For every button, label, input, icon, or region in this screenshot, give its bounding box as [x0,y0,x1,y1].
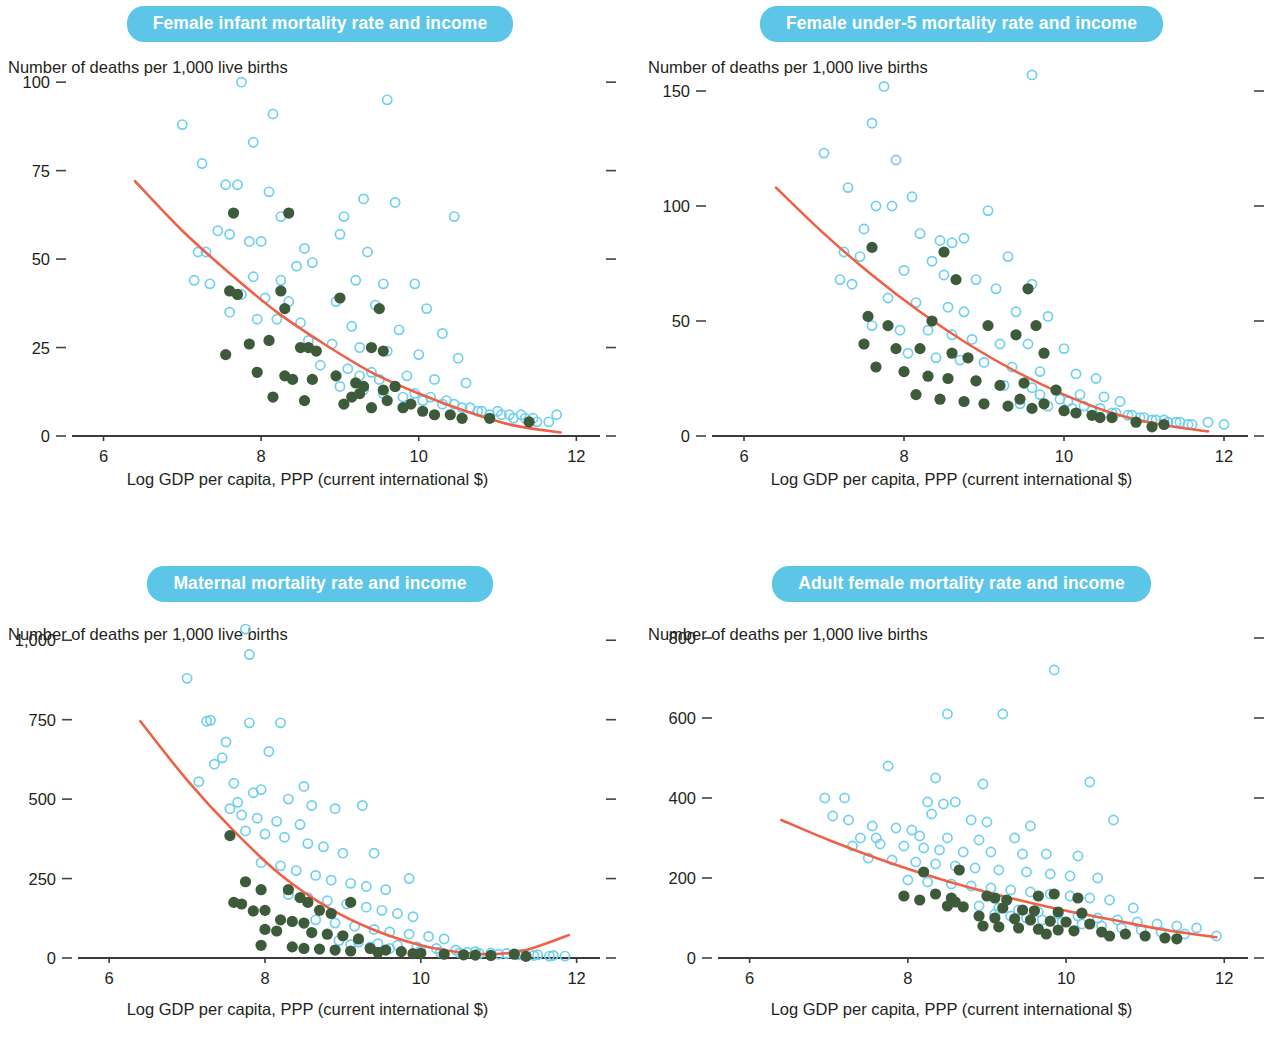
data-point-open [359,194,368,203]
data-point-filled [485,950,496,961]
data-point-open [998,709,1007,718]
data-point-open [943,833,952,842]
data-point-open [1026,821,1035,830]
data-point-filled [1076,908,1087,919]
data-point-open [358,801,367,810]
panel-female-infant-mortality: Female infant mortality rate and income … [0,0,640,560]
data-point-open [994,865,1003,874]
data-point-open [923,326,932,335]
data-point-open [1046,869,1055,878]
data-point-filled [1146,421,1157,432]
data-point-filled [1058,405,1069,416]
data-point-open [292,262,301,271]
data-point-open [379,279,388,288]
data-point-open [939,270,948,279]
data-point-filled [236,898,247,909]
data-point-open [1035,390,1044,399]
data-point-open [221,180,230,189]
data-point-filled [989,892,1000,903]
x-tick-label: 12 [567,447,585,465]
data-point-filled [997,902,1008,913]
data-point-filled [930,888,941,899]
x-tick-label: 10 [410,447,428,465]
data-point-open [895,326,904,335]
data-point-filled [1022,283,1033,294]
x-tick-label: 8 [903,969,912,987]
data-point-filled [330,944,341,955]
data-point-open [276,718,285,727]
data-point-open [1003,252,1012,261]
data-point-open [907,192,916,201]
data-point-open [369,849,378,858]
data-point-open [253,814,262,823]
data-point-filled [520,951,531,962]
y-tick-label: 0 [41,427,50,445]
data-point-open [1042,849,1051,858]
data-point-filled [1159,932,1170,943]
data-point-filled [275,285,286,296]
data-point-open [182,674,191,683]
data-point-filled [962,352,973,363]
trend-line [776,188,1208,432]
data-point-filled [378,384,389,395]
data-point-open [1091,374,1100,383]
data-point-filled [1094,412,1105,423]
y-tick-label: 75 [32,162,50,180]
panel-adult-female-mortality: Adult female mortality rate and income N… [640,560,1283,1061]
data-point-filled [946,348,957,359]
data-point-open [405,874,414,883]
data-point-open [408,912,417,921]
data-point-filled [523,416,534,427]
data-point-filled [994,380,1005,391]
data-point-filled [509,949,520,960]
data-point-filled [958,901,969,912]
data-point-open [935,236,944,245]
data-point-open [237,78,246,87]
data-point-filled [934,394,945,405]
data-point-open [982,817,991,826]
data-point-filled [938,246,949,257]
data-point-open [363,247,372,256]
data-point-open [911,857,920,866]
y-tick-label: 0 [681,427,690,445]
y-tick-label: 800 [668,629,696,647]
data-point-filled [1104,930,1115,941]
data-point-filled [458,949,469,960]
data-point-open [1043,312,1052,321]
data-point-open [1115,397,1124,406]
data-point-filled [354,388,365,399]
data-point-filled [914,343,925,354]
data-point-open [819,149,828,158]
x-tick-label: 12 [1215,447,1233,465]
data-point-open [440,934,449,943]
trend-line [140,721,569,954]
data-point-open [883,293,892,302]
data-point-filled [942,373,953,384]
data-point-filled [973,910,984,921]
data-point-open [253,315,262,324]
y-tick-label: 100 [662,197,690,215]
data-point-open [907,825,916,834]
x-tick-label: 6 [739,447,748,465]
data-point-filled [302,897,313,908]
data-point-open [284,795,293,804]
data-point-filled [942,900,953,911]
data-point-open [899,841,908,850]
data-point-filled [255,940,266,951]
data-point-open [424,932,433,941]
data-point-open [307,801,316,810]
data-point-filled [970,375,981,386]
data-point-open [237,810,246,819]
data-point-filled [898,366,909,377]
data-point-open [974,901,983,910]
data-point-open [915,831,924,840]
data-point-open [1172,921,1181,930]
data-point-filled [263,335,274,346]
data-point-filled [1120,928,1131,939]
data-point-filled [287,374,298,385]
data-point-open [979,358,988,367]
data-point-filled [977,920,988,931]
data-point-open [840,793,849,802]
data-point-filled [224,830,235,841]
data-point-open [377,906,386,915]
